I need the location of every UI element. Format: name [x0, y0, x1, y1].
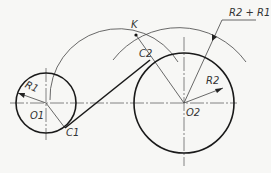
point-k	[134, 33, 137, 36]
o1-c1-line	[46, 103, 65, 128]
label-c1: C1	[66, 128, 79, 138]
label-c2-text: C2	[139, 48, 152, 59]
r2-arrow	[215, 88, 223, 93]
label-r-sum: R2 + R1	[229, 8, 270, 18]
r1-arrow	[18, 93, 25, 98]
label-k: K	[131, 20, 138, 30]
r-sum-arrow	[212, 34, 217, 41]
arrowheads	[18, 34, 223, 98]
label-r2: R2	[206, 76, 219, 86]
label-o2: O2	[186, 108, 200, 118]
tangent-construction-diagram: K C2 R2 + R1 R2 R1 O1 O2 C1	[0, 0, 271, 173]
r-sum-arc	[113, 28, 246, 62]
label-c2: C2	[139, 49, 152, 59]
k-o2-line	[136, 35, 184, 103]
label-o1: O1	[30, 111, 44, 121]
tangent-line	[65, 60, 150, 128]
